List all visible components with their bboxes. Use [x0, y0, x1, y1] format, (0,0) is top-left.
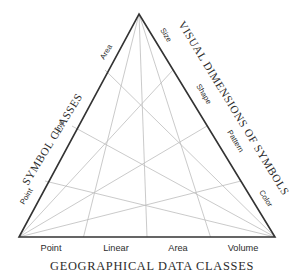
left-axis-title: SYMBOL CLASSES [19, 91, 84, 187]
bottom-axis-title: GEOGRAPHICAL DATA CLASSES [50, 259, 254, 273]
grid-line-right-2 [72, 126, 275, 237]
bottom-axis-tick-volume: Volume [228, 243, 259, 253]
bottom-axis-tick-point: Point [41, 243, 62, 253]
grid-line-right-3 [45, 181, 275, 237]
right-axis-group: VISUAL DIMENSIONS OF SYMBOLS Size Shape … [158, 19, 291, 209]
bottom-axis-tick-area: Area [168, 243, 188, 253]
ternary-diagram-figure: SYMBOL CLASSES Point Line Area VISUAL DI… [0, 0, 305, 276]
grid-line-right-1 [105, 70, 275, 237]
right-axis-tick-size: Size [158, 26, 173, 43]
left-axis-tick-area: Area [98, 42, 114, 61]
bottom-axis-group: Point Linear Area Volume GEOGRAPHICAL DA… [41, 243, 259, 273]
bottom-axis-tick-linear: Linear [103, 243, 129, 253]
right-axis-tick-shape: Shape [194, 82, 213, 105]
ternary-diagram-canvas: SYMBOL CLASSES Point Line Area VISUAL DI… [0, 0, 305, 276]
right-axis-tick-color: Color [257, 188, 274, 209]
grid-line-apex-2 [139, 14, 147, 237]
left-axis-tick-point: Point [18, 186, 35, 206]
left-axis-group: SYMBOL CLASSES Point Line Area [18, 42, 114, 206]
